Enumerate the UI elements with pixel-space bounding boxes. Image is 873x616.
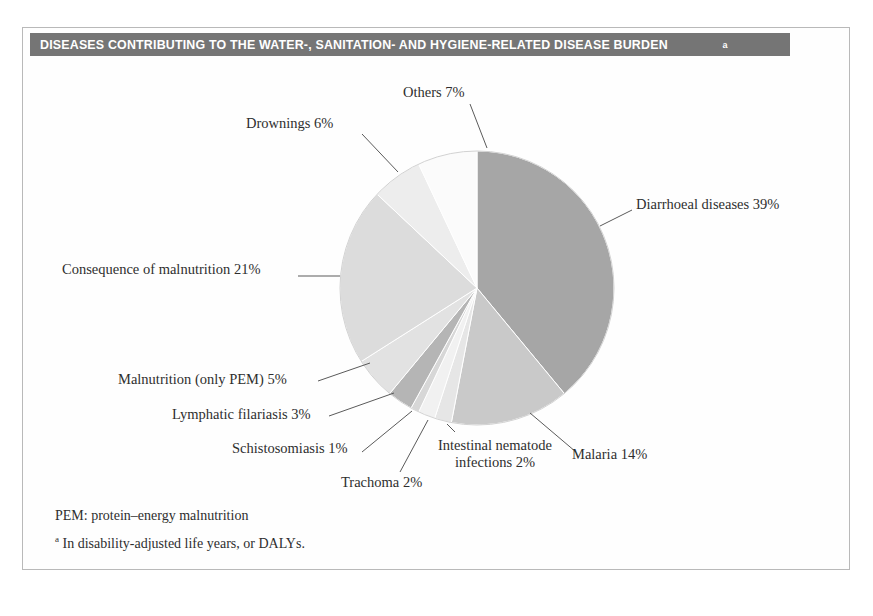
figure-title-bar: DISEASES CONTRIBUTING TO THE WATER-, SAN… (30, 33, 790, 56)
figure-title-superscript: a (722, 40, 727, 50)
footnote-pem: PEM: protein–energy malnutrition (55, 508, 248, 524)
footnote-daly: a In disability-adjusted life years, or … (55, 534, 305, 552)
footnote-daly-text: In disability-adjusted life years, or DA… (59, 536, 305, 551)
figure-frame (22, 27, 850, 570)
figure-title: DISEASES CONTRIBUTING TO THE WATER-, SAN… (40, 37, 668, 52)
